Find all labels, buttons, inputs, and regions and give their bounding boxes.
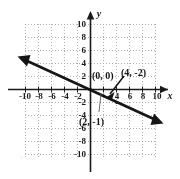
x-tick-label--2: -2 xyxy=(74,91,82,101)
y-tick-label-10: 10 xyxy=(77,19,87,29)
point-4-neg2-label: (4, -2) xyxy=(121,67,146,79)
y-tick-label-8: 8 xyxy=(82,32,87,42)
point-marker-2-neg1 xyxy=(102,95,105,98)
x-tick-label--10: -10 xyxy=(19,91,31,101)
y-tick-label-2: 2 xyxy=(82,71,87,81)
x-tick-label-4: 4 xyxy=(115,91,120,101)
point-marker-origin xyxy=(89,88,92,91)
y-axis-label: y xyxy=(96,8,102,19)
coordinate-plane-figure: 10 8 6 4 2 -2 -4 -6 -8 -10 -10 -8 -6 -4 … xyxy=(0,0,180,179)
origin-point-label: (0, 0) xyxy=(92,70,114,82)
y-tick-label-6: 6 xyxy=(82,45,87,55)
x-tick-label-8: 8 xyxy=(141,91,146,101)
x-axis-label: x xyxy=(167,90,173,101)
x-tick-label-10: 10 xyxy=(153,91,163,101)
y-tick-label--8: -8 xyxy=(79,136,87,146)
y-tick-label-4: 4 xyxy=(82,58,87,68)
x-tick-label--4: -4 xyxy=(61,91,69,101)
x-tick-label-6: 6 xyxy=(128,91,133,101)
graph-canvas: 10 8 6 4 2 -2 -4 -6 -8 -10 -10 -8 -6 -4 … xyxy=(0,0,180,179)
point-marker-4-neg2 xyxy=(115,101,118,104)
point-2-neg1-label: (2, -1) xyxy=(79,116,104,128)
x-tick-label--8: -8 xyxy=(35,91,43,101)
x-tick-label--6: -6 xyxy=(48,91,56,101)
y-tick-label--10: -10 xyxy=(74,149,86,159)
